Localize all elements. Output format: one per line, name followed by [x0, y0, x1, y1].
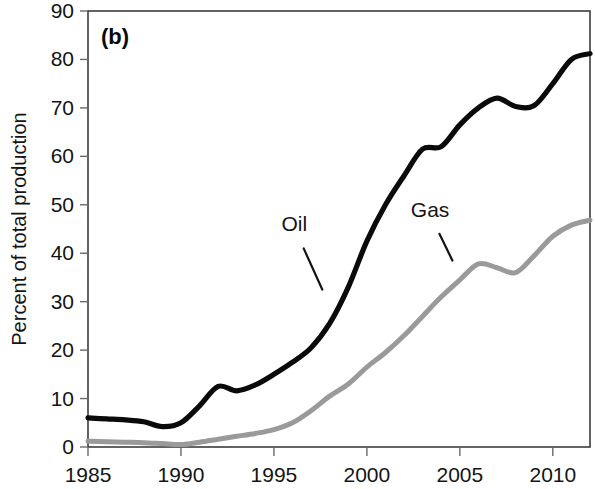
- y-tick-label: 20: [51, 338, 74, 361]
- y-tick-label: 70: [51, 96, 74, 119]
- series-label-gas: Gas: [411, 198, 450, 221]
- y-tick-label: 40: [51, 241, 74, 264]
- x-tick-label: 1995: [251, 463, 298, 486]
- y-axis-title: Percent of total production: [8, 112, 30, 345]
- x-tick-label: 1985: [65, 463, 112, 486]
- x-axis-tick-labels: 198519901995200020052010: [65, 463, 577, 486]
- y-tick-label: 0: [62, 435, 74, 458]
- line-chart: 0102030405060708090 19851990199520002005…: [0, 0, 595, 489]
- x-tick-label: 1990: [158, 463, 205, 486]
- plot-frame: [88, 11, 590, 447]
- chart-figure: 0102030405060708090 19851990199520002005…: [0, 0, 595, 489]
- y-tick-label: 50: [51, 193, 74, 216]
- y-axis-ticks: [80, 11, 88, 447]
- panel-label: (b): [101, 24, 129, 49]
- y-axis-tick-labels: 0102030405060708090: [51, 0, 74, 458]
- x-axis-ticks: [88, 447, 553, 456]
- y-tick-label: 30: [51, 290, 74, 313]
- y-tick-label: 60: [51, 144, 74, 167]
- x-tick-label: 2005: [436, 463, 483, 486]
- y-tick-label: 10: [51, 387, 74, 410]
- series-label-oil: Oil: [282, 212, 308, 235]
- x-tick-label: 2010: [529, 463, 576, 486]
- y-tick-label: 90: [51, 0, 74, 22]
- x-tick-label: 2000: [344, 463, 391, 486]
- y-tick-label: 80: [51, 47, 74, 70]
